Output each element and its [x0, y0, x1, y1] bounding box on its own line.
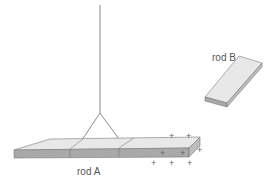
plus-charge-icon: + [186, 131, 191, 141]
rod-b [205, 56, 262, 107]
plus-charge-icon: + [160, 148, 165, 158]
diagram-canvas: + + + + + + + + rod A rod B [0, 0, 269, 187]
rod-b-label: rod B [212, 52, 236, 63]
plus-charge-icon: + [151, 158, 156, 168]
plus-charge-icon: + [169, 131, 174, 141]
plus-charge-icon: + [180, 148, 185, 158]
plus-charge-icon: + [169, 158, 174, 168]
rod-a-label: rod A [77, 166, 101, 177]
plus-charge-icon: + [187, 158, 192, 168]
plus-charge-icon: + [197, 145, 202, 155]
suspension-string [78, 5, 124, 146]
